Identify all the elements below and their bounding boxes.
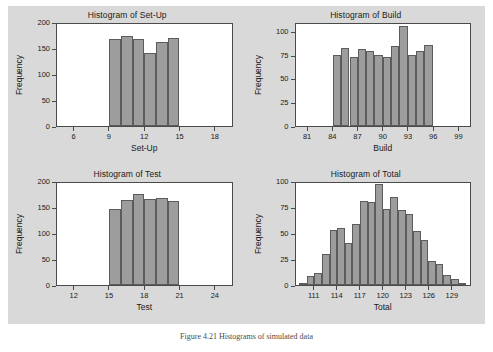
- plot-area-total: [295, 182, 472, 286]
- x-tick-mark: [357, 127, 358, 131]
- histogram-bar: [341, 48, 349, 126]
- histogram-bar: [424, 45, 432, 126]
- x-tick-mark: [214, 127, 215, 131]
- histogram-bar: [399, 26, 407, 126]
- y-tick-label: 150: [37, 44, 50, 53]
- x-tick-mark: [451, 286, 452, 290]
- y-tick-label: 100: [37, 70, 50, 79]
- x-tick-label: 120: [376, 291, 389, 300]
- x-tick-mark: [179, 127, 180, 131]
- y-tick-label: 0: [46, 281, 50, 290]
- x-tick-mark: [407, 127, 408, 131]
- histogram-bar: [121, 36, 133, 126]
- histogram-bar: [345, 243, 353, 285]
- histogram-bar: [451, 279, 459, 285]
- panel-set-up: Histogram of Set-Up Frequency 0501001502…: [8, 6, 247, 165]
- histogram-bar: [416, 51, 424, 126]
- x-axis-label-set-up: Set-Up: [56, 143, 233, 153]
- histogram-bar: [350, 57, 358, 126]
- x-tick-mark: [405, 286, 406, 290]
- histogram-bar: [383, 57, 391, 126]
- histogram-bar: [391, 46, 399, 126]
- x-tick-mark: [336, 286, 337, 290]
- histogram-bar: [168, 38, 180, 126]
- histogram-bar: [109, 39, 121, 126]
- histogram-bar: [144, 53, 156, 126]
- panel-build: Histogram of Build Frequency 0255075100 …: [247, 6, 486, 165]
- histogram-bar: [333, 55, 341, 126]
- bar-series-set-up: [57, 24, 232, 126]
- plot-area-test: [56, 182, 233, 286]
- histogram-bar: [375, 184, 383, 285]
- x-tick-mark: [108, 286, 109, 290]
- x-tick-label: 93: [404, 132, 412, 141]
- x-tick-mark: [433, 127, 434, 131]
- histogram-bar: [406, 214, 414, 285]
- x-tick-label: 12: [69, 291, 77, 300]
- histogram-bar: [121, 200, 133, 285]
- figure-caption: Figure 4.21 Histograms of simulated data: [0, 332, 493, 352]
- x-tick-mark: [144, 127, 145, 131]
- x-tick-label: 9: [107, 132, 111, 141]
- histogram-bar: [314, 273, 322, 285]
- x-tick-mark: [214, 286, 215, 290]
- x-axis-label-build: Build: [295, 143, 472, 153]
- figure-container: Histogram of Set-Up Frequency 0501001502…: [0, 0, 493, 352]
- histogram-bar: [383, 209, 391, 286]
- histogram-bar: [390, 197, 398, 285]
- histogram-bar: [443, 275, 451, 285]
- x-tick-mark: [307, 127, 308, 131]
- x-tick-label: 15: [175, 132, 183, 141]
- x-tick-label: 117: [354, 291, 366, 300]
- y-tick-label: 100: [276, 177, 289, 186]
- histogram-bar: [156, 198, 168, 285]
- histogram-bar: [133, 39, 145, 126]
- y-tick-label: 200: [37, 177, 50, 186]
- x-tick-mark: [382, 127, 383, 131]
- x-tick-label: 111: [308, 291, 319, 300]
- x-tick-mark: [108, 127, 109, 131]
- y-tick-label: 50: [280, 74, 288, 83]
- histogram-bar: [428, 261, 436, 285]
- x-tick-mark: [428, 286, 429, 290]
- x-tick-label: 114: [331, 291, 343, 300]
- histogram-bar: [436, 264, 444, 285]
- x-tick-label: 126: [423, 291, 436, 300]
- histogram-bar: [368, 202, 376, 285]
- x-tick-label: 15: [105, 291, 113, 300]
- x-tick-mark: [73, 286, 74, 290]
- y-tick-label: 25: [280, 98, 288, 107]
- histogram-bar: [366, 51, 374, 126]
- histogram-bar: [398, 210, 406, 285]
- x-tick-mark: [73, 127, 74, 131]
- y-tick-label: 0: [46, 122, 50, 131]
- y-tick-label: 25: [280, 255, 288, 264]
- histogram-bar: [408, 55, 416, 126]
- y-axis-build: 0255075100: [247, 23, 295, 127]
- x-tick-mark: [332, 127, 333, 131]
- y-tick-label: 50: [42, 255, 50, 264]
- x-tick-mark: [313, 286, 314, 290]
- x-tick-label: 99: [454, 132, 462, 141]
- x-tick-mark: [382, 286, 383, 290]
- histogram-bar: [413, 231, 421, 285]
- x-tick-mark: [458, 127, 459, 131]
- x-axis-label-total: Total: [295, 302, 472, 312]
- y-axis-test: 050100150200: [8, 182, 56, 286]
- y-tick-label: 150: [37, 203, 50, 212]
- x-tick-label: 21: [175, 291, 183, 300]
- y-tick-label: 100: [276, 27, 289, 36]
- bar-series-build: [296, 24, 471, 126]
- plot-area-set-up: [56, 23, 233, 127]
- y-tick-label: 200: [37, 18, 50, 27]
- x-tick-mark: [144, 286, 145, 290]
- x-tick-label: 87: [353, 132, 361, 141]
- x-tick-mark: [359, 286, 360, 290]
- histogram-bar: [307, 276, 315, 285]
- x-tick-label: 129: [446, 291, 459, 300]
- histogram-bar: [459, 283, 467, 285]
- x-tick-label: 90: [379, 132, 387, 141]
- histogram-panel-grid: Histogram of Set-Up Frequency 0501001502…: [8, 6, 485, 324]
- x-tick-label: 18: [211, 132, 219, 141]
- y-tick-label: 100: [37, 229, 50, 238]
